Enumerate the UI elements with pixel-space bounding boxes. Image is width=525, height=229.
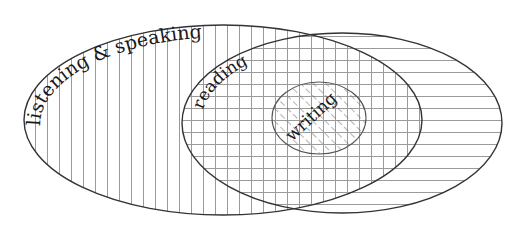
- venn-diagram: listening & speaking reading writing: [0, 0, 525, 229]
- diagram-canvas: listening & speaking reading writing: [0, 0, 525, 229]
